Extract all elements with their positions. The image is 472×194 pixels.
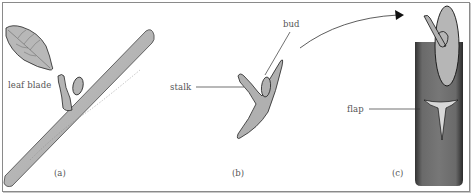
caption-panel-c: (c) <box>392 168 403 178</box>
label-stalk: stalk <box>170 82 191 92</box>
diagram-canvas <box>0 0 472 194</box>
caption-panel-b: (b) <box>232 168 244 178</box>
panel-a-illustration <box>4 26 154 187</box>
panel-c-illustration <box>369 6 463 186</box>
arrow-head-icon <box>395 10 404 20</box>
leaf-blade-shape <box>6 26 53 70</box>
label-flap: flap <box>347 104 364 114</box>
bud-shape <box>71 76 85 96</box>
leaf-stalk-shape <box>58 75 72 111</box>
panel-b-illustration <box>196 32 290 139</box>
curved-arrow <box>300 10 404 48</box>
bud-shield-shape <box>237 60 282 139</box>
caption-panel-a: (a) <box>54 168 66 178</box>
label-bud: bud <box>283 19 300 29</box>
label-leaf-blade: leaf blade <box>8 80 51 90</box>
